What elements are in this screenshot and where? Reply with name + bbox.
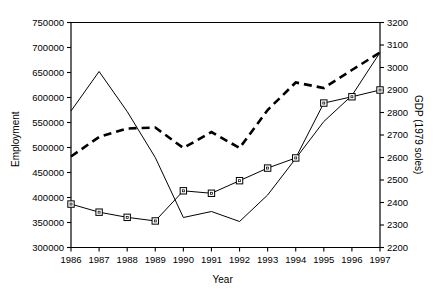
- y-axis-right-tick-label: 2400: [387, 198, 408, 208]
- y-axis-left-tick-label: 400000: [0, 193, 64, 203]
- y-axis-left-tick-label: 650000: [0, 68, 64, 78]
- series-marker-gdp-squares: [96, 209, 102, 215]
- series-marker-gdp-squares: [208, 190, 214, 196]
- series-marker-gdp-squares: [293, 155, 299, 161]
- y-axis-left-tick-label: 350000: [0, 218, 64, 228]
- y-axis-left-tick-label: 450000: [0, 168, 64, 178]
- x-axis-tick-label: 1989: [142, 255, 168, 265]
- series-marker-gdp-squares: [68, 201, 74, 207]
- series-marker-gdp-squares: [377, 87, 383, 93]
- x-axis-tick-label: 1996: [339, 255, 365, 265]
- y-axis-left-tick-label: 550000: [0, 118, 64, 128]
- x-axis-tick-label: 1992: [227, 255, 253, 265]
- x-axis-tick-label: 1993: [255, 255, 281, 265]
- series-marker-gdp-squares: [321, 100, 327, 106]
- y-axis-right-tick-label: 2200: [387, 243, 408, 253]
- chart-container: Employment GDP (1979 soles) Year 3000003…: [0, 0, 436, 300]
- y-axis-left-tick-label: 600000: [0, 93, 64, 103]
- y-axis-right-tick-label: 2600: [387, 153, 408, 163]
- series-line-employment-dashed: [71, 53, 380, 157]
- y-axis-left-tick-label: 750000: [0, 18, 64, 28]
- series-marker-gdp-squares: [124, 214, 130, 220]
- y-axis-right-tick-label: 2900: [387, 85, 408, 95]
- y-axis-right-tick-label: 2300: [387, 220, 408, 230]
- x-axis-tick-label: 1997: [367, 255, 393, 265]
- x-axis-tick-label: 1990: [170, 255, 196, 265]
- x-axis-tick-label: 1986: [58, 255, 84, 265]
- series-line-employment-solid: [71, 53, 380, 222]
- series-marker-gdp-squares: [152, 218, 158, 224]
- y-axis-right-tick-label: 3200: [387, 18, 408, 28]
- series-line-gdp-squares: [71, 90, 380, 221]
- x-axis-tick-label: 1988: [114, 255, 140, 265]
- y-axis-left-tick-label: 500000: [0, 143, 64, 153]
- series-marker-gdp-squares: [180, 188, 186, 194]
- x-axis-tick-label: 1995: [311, 255, 337, 265]
- series-marker-gdp-squares: [236, 177, 242, 183]
- x-axis-tick-label: 1994: [283, 255, 309, 265]
- y-axis-right-tick-label: 2500: [387, 175, 408, 185]
- x-axis-tick-label: 1991: [198, 255, 224, 265]
- y-axis-right-tick-label: 2700: [387, 130, 408, 140]
- x-axis-tick-label: 1987: [86, 255, 112, 265]
- y-axis-left-tick-label: 300000: [0, 243, 64, 253]
- series-marker-gdp-squares: [349, 94, 355, 100]
- series-marker-gdp-squares: [264, 165, 270, 171]
- y-axis-right-tick-label: 3000: [387, 63, 408, 73]
- y-axis-right-tick-label: 2800: [387, 108, 408, 118]
- y-axis-right-tick-label: 3100: [387, 40, 408, 50]
- y-axis-left-tick-label: 700000: [0, 43, 64, 53]
